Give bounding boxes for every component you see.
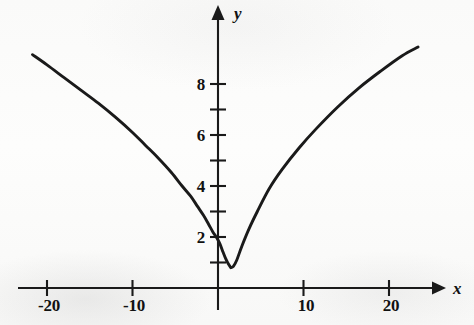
data-curve	[32, 47, 418, 268]
x-axis-label: x	[453, 280, 462, 297]
y-axis-arrowhead	[212, 5, 225, 20]
y-tick-label-4: 4	[197, 178, 205, 195]
y-tick-label-2: 2	[197, 229, 205, 246]
x-tick-label-10: 10	[298, 297, 315, 314]
x-tick-label--20: -20	[38, 297, 60, 314]
y-tick-label-8: 8	[197, 76, 205, 93]
y-axis-label: y	[234, 5, 242, 22]
x-tick-label--10: -10	[123, 297, 145, 314]
chart-figure: -20 -10 10 20 2 4 6 8 y x	[0, 0, 474, 325]
plot-area	[0, 0, 474, 325]
y-tick-label-6: 6	[197, 127, 205, 144]
x-tick-label-20: 20	[383, 297, 400, 314]
x-axis-arrowhead	[432, 282, 446, 295]
